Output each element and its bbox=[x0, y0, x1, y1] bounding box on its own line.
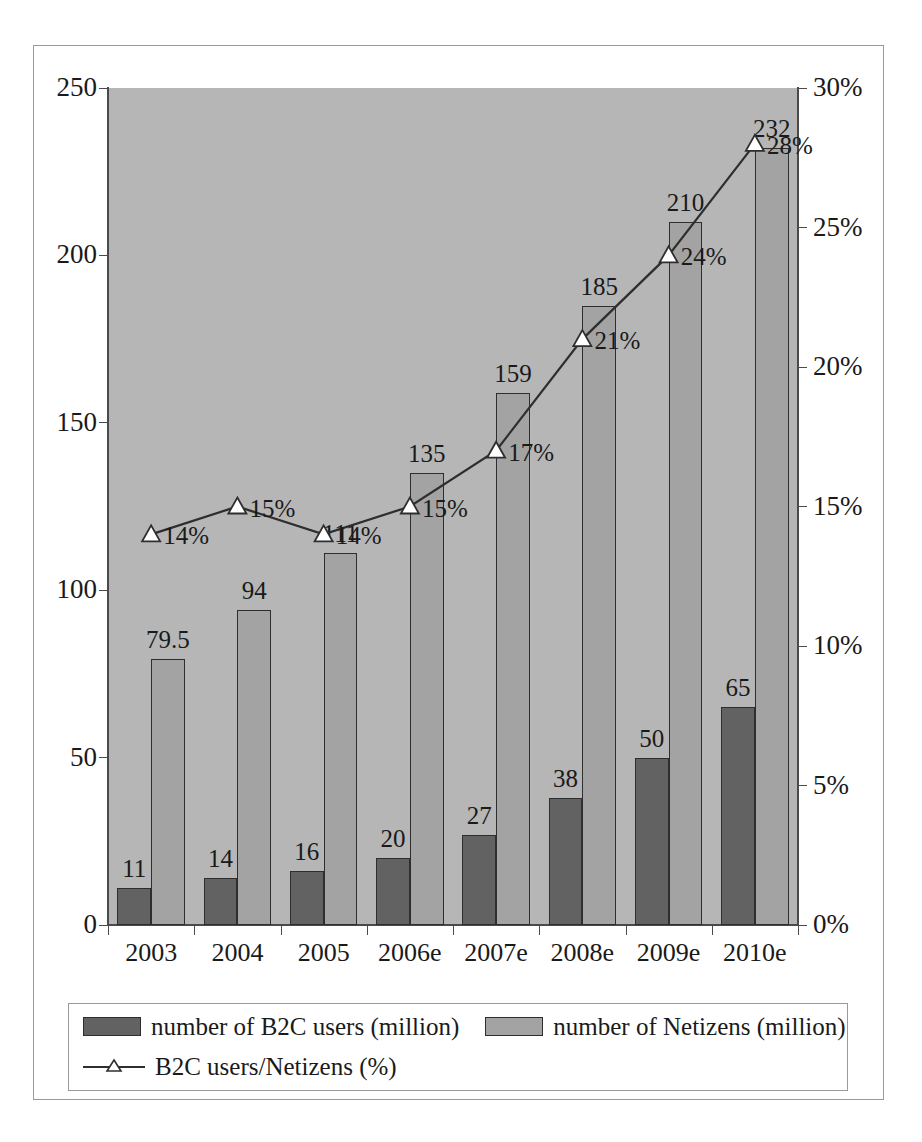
legend-label-b2c-users: number of B2C users (million) bbox=[151, 1014, 459, 1039]
chart-figure: 050100150200250 0%5%10%15%20%25%30% 2003… bbox=[0, 0, 922, 1142]
bar-netizens bbox=[151, 659, 185, 925]
bar-netizens bbox=[582, 306, 616, 925]
bar-netizens bbox=[237, 610, 271, 925]
x-axis-tick bbox=[194, 926, 195, 935]
bar-label-netizens: 210 bbox=[647, 190, 725, 215]
bar-label-netizens: 94 bbox=[215, 578, 293, 603]
y-axis-left-tick-label: 100 bbox=[27, 576, 97, 603]
bar-label-b2c-users: 14 bbox=[182, 846, 260, 871]
bar-label-b2c-users: 11 bbox=[95, 856, 173, 881]
bar-b2c-users bbox=[376, 858, 410, 925]
bar-b2c-users bbox=[117, 888, 151, 925]
legend-row-secondary: B2C users/Netizens (%) bbox=[83, 1054, 423, 1079]
legend-row-primary: number of B2C users (million) number of … bbox=[83, 1014, 872, 1039]
bar-b2c-users bbox=[462, 835, 496, 925]
bar-netizens bbox=[669, 222, 703, 925]
legend-item-ratio[interactable]: B2C users/Netizens (%) bbox=[83, 1054, 397, 1079]
legend-item-b2c-users[interactable]: number of B2C users (million) bbox=[83, 1014, 459, 1039]
legend-item-netizens[interactable]: number of Netizens (million) bbox=[485, 1014, 845, 1039]
y-axis-left bbox=[107, 87, 109, 926]
chart-legend: number of B2C users (million) number of … bbox=[68, 1003, 848, 1091]
y-axis-left-tick bbox=[99, 757, 109, 758]
x-axis-tick bbox=[281, 926, 282, 935]
x-axis-category-label: 2003 bbox=[108, 940, 194, 966]
legend-swatch-light-icon bbox=[485, 1017, 543, 1036]
bar-b2c-users bbox=[290, 871, 324, 925]
y-axis-right-tick bbox=[797, 506, 807, 507]
x-axis-tick bbox=[108, 926, 109, 935]
x-axis-category-label: 2009e bbox=[626, 940, 712, 966]
y-axis-left-tick bbox=[99, 590, 109, 591]
x-axis-tick bbox=[367, 926, 368, 935]
line-label-ratio: 14% bbox=[336, 523, 382, 548]
x-axis-tick bbox=[626, 926, 627, 935]
x-axis-category-label: 2006e bbox=[367, 940, 453, 966]
legend-swatch-dark-icon bbox=[83, 1017, 141, 1036]
x-axis-tick bbox=[712, 926, 713, 935]
y-axis-right-tick bbox=[797, 646, 807, 647]
y-axis-left-tick bbox=[99, 255, 109, 256]
y-axis-left-tick-label: 150 bbox=[27, 409, 97, 436]
bar-label-b2c-users: 27 bbox=[440, 803, 518, 828]
y-axis-right-tick-label: 15% bbox=[813, 493, 863, 520]
x-axis-category-label: 2007e bbox=[453, 940, 539, 966]
y-axis-right-tick-label: 30% bbox=[813, 74, 863, 101]
y-axis-left-tick bbox=[99, 88, 109, 89]
y-axis-right-tick bbox=[797, 88, 807, 89]
y-axis-right-tick-label: 10% bbox=[813, 632, 863, 659]
bar-label-b2c-users: 65 bbox=[699, 675, 777, 700]
bar-label-b2c-users: 50 bbox=[613, 726, 691, 751]
bar-label-b2c-users: 16 bbox=[268, 839, 346, 864]
line-label-ratio: 15% bbox=[422, 496, 468, 521]
y-axis-right-tick bbox=[797, 785, 807, 786]
y-axis-left-tick-label: 50 bbox=[27, 744, 97, 771]
bar-b2c-users bbox=[549, 798, 583, 925]
bar-label-b2c-users: 20 bbox=[354, 826, 432, 851]
y-axis-left-tick-label: 250 bbox=[27, 74, 97, 101]
bar-netizens bbox=[324, 553, 358, 925]
x-axis-category-label: 2010e bbox=[712, 940, 798, 966]
x-axis-tick bbox=[539, 926, 540, 935]
line-label-ratio: 15% bbox=[249, 496, 295, 521]
line-label-ratio: 17% bbox=[508, 440, 554, 465]
y-axis-right-tick-label: 5% bbox=[813, 772, 849, 799]
y-axis-right-tick-label: 25% bbox=[813, 214, 863, 241]
y-axis-left-tick bbox=[99, 422, 109, 423]
bar-b2c-users bbox=[204, 878, 238, 925]
x-axis-category-label: 2005 bbox=[281, 940, 367, 966]
line-label-ratio: 28% bbox=[767, 133, 813, 158]
bar-label-netizens: 159 bbox=[474, 361, 552, 386]
y-axis-right-tick-label: 0% bbox=[813, 911, 849, 938]
bar-label-netizens: 135 bbox=[388, 441, 466, 466]
line-label-ratio: 24% bbox=[681, 244, 727, 269]
line-label-ratio: 21% bbox=[594, 328, 640, 353]
bar-netizens bbox=[410, 473, 444, 925]
bar-netizens bbox=[496, 393, 530, 925]
x-axis-tick bbox=[453, 926, 454, 935]
bar-b2c-users bbox=[635, 758, 669, 925]
bar-b2c-users bbox=[721, 707, 755, 925]
x-axis-tick bbox=[798, 926, 799, 935]
bar-label-netizens: 79.5 bbox=[129, 627, 207, 652]
bar-label-netizens: 185 bbox=[560, 274, 638, 299]
x-axis-category-label: 2004 bbox=[194, 940, 280, 966]
y-axis-left-tick-label: 0 bbox=[27, 911, 97, 938]
legend-line-triangle-icon bbox=[83, 1057, 145, 1077]
bar-label-b2c-users: 38 bbox=[527, 766, 605, 791]
legend-label-ratio: B2C users/Netizens (%) bbox=[155, 1054, 397, 1079]
y-axis-right-tick bbox=[797, 367, 807, 368]
y-axis-right-tick-label: 20% bbox=[813, 353, 863, 380]
legend-label-netizens: number of Netizens (million) bbox=[553, 1014, 845, 1039]
y-axis-right-tick bbox=[797, 227, 807, 228]
bar-netizens bbox=[755, 148, 789, 925]
line-label-ratio: 14% bbox=[163, 523, 209, 548]
y-axis-left-tick-label: 200 bbox=[27, 241, 97, 268]
x-axis-category-label: 2008e bbox=[539, 940, 625, 966]
